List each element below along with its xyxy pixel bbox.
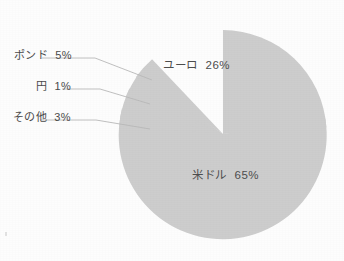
- pie-chart-page: ポンド5% 円1% その他3% ユーロ26% 米ドル65%: [0, 0, 344, 261]
- slice-label-usd: 米ドル65%: [192, 166, 259, 182]
- slice-label-euro: ユーロ26%: [163, 56, 230, 72]
- pie-slice-euro: [223, 30, 326, 134]
- slice-callout-yen: 円1%: [36, 77, 71, 93]
- scan-artifact-speck: [5, 232, 7, 236]
- slice-label-usd-name: 米ドル: [192, 169, 227, 181]
- slice-callout-other: その他3%: [13, 108, 71, 124]
- slice-callout-pound-value: 5%: [55, 49, 72, 61]
- slice-label-usd-value: 65%: [235, 169, 260, 181]
- slice-callout-pound-name: ポンド: [14, 49, 48, 61]
- slice-callout-yen-name: 円: [36, 80, 47, 92]
- slice-label-euro-name: ユーロ: [163, 59, 198, 71]
- slice-callout-other-name: その他: [13, 111, 47, 123]
- slice-callout-yen-value: 1%: [54, 80, 71, 92]
- slice-callout-other-value: 3%: [54, 111, 71, 123]
- slice-label-euro-value: 26%: [206, 59, 231, 71]
- slice-callout-pound: ポンド5%: [14, 46, 72, 62]
- pie-chart-graphic: [0, 0, 344, 261]
